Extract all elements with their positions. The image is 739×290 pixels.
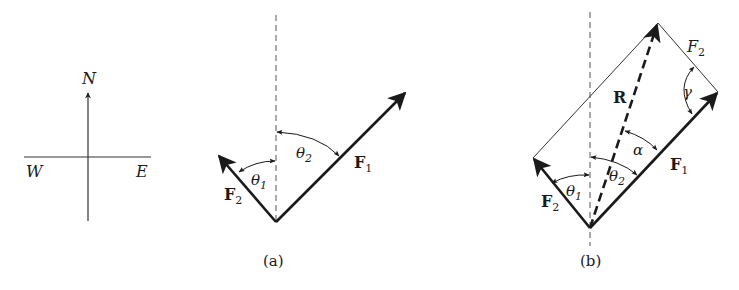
vector-f2-label-b: F2 bbox=[541, 192, 559, 214]
compass-rose: N W E bbox=[24, 69, 151, 221]
vector-f2-side-label: F2 bbox=[686, 37, 705, 59]
angle-theta2-label-a: θ2 bbox=[296, 144, 312, 165]
vector-f1-label-a: F1 bbox=[354, 153, 372, 175]
compass-east-label: E bbox=[135, 162, 148, 181]
parallelogram-side-top-f2 bbox=[658, 23, 718, 92]
vector-r-label: R bbox=[613, 88, 627, 107]
vector-f2-label-a: F2 bbox=[224, 185, 242, 207]
panel-a: θ2 θ1 F1 F2 (a) bbox=[219, 15, 405, 270]
angle-alpha-label: α bbox=[633, 141, 643, 159]
vector-resultant-r bbox=[590, 25, 657, 228]
panel-b: R F2 γ α θ2 θ1 F1 F2 (b) bbox=[533, 12, 718, 270]
vector-f1-label-b: F1 bbox=[670, 155, 688, 177]
compass-west-label: W bbox=[26, 162, 44, 181]
angle-gamma-label: γ bbox=[683, 83, 692, 101]
panel-a-caption: (a) bbox=[263, 252, 284, 270]
parallelogram-side-left bbox=[533, 23, 658, 158]
panel-b-caption: (b) bbox=[580, 252, 601, 270]
compass-north-label: N bbox=[81, 69, 97, 88]
angle-theta1-label-b: θ1 bbox=[566, 182, 582, 203]
vector-diagram-canvas: N W E θ2 θ1 F1 F2 (a) bbox=[0, 0, 739, 290]
angle-theta1-label-a: θ1 bbox=[251, 171, 267, 192]
angle-theta2-label-b: θ2 bbox=[609, 167, 625, 188]
